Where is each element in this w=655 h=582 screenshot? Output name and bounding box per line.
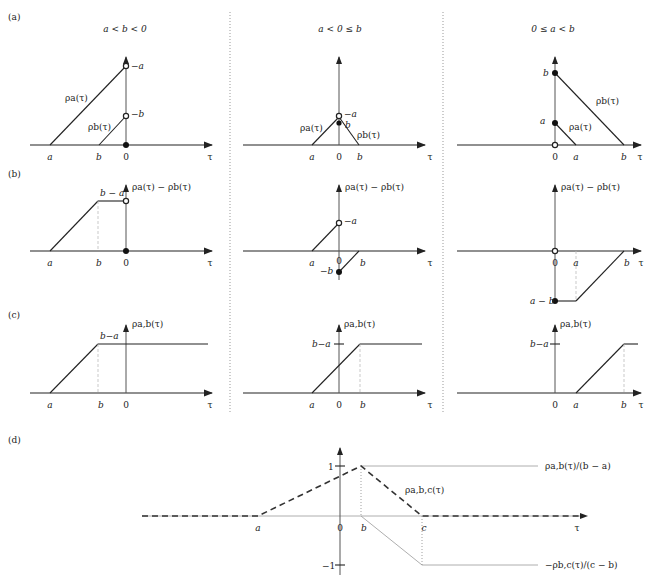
svg-text:a: a: [309, 258, 314, 268]
svg-text:τ: τ: [639, 400, 644, 410]
svg-text:−a: −a: [344, 216, 357, 226]
figure-canvas: (a) (b) (c) (d) a < b < 0 a < 0 ≤ b 0 ≤ …: [0, 0, 655, 582]
svg-text:ρa(τ): ρa(τ): [569, 122, 592, 132]
label-rho-ab-normalized: ρa,b(τ)/(b − a): [545, 461, 611, 471]
plot-a-col1: −a −b ρa(τ) ρb(τ) a b 0 τ: [30, 57, 213, 162]
svg-text:0: 0: [337, 523, 343, 533]
panel-label-d: (d): [8, 435, 21, 445]
svg-text:a: a: [540, 116, 545, 126]
svg-text:τ: τ: [575, 523, 580, 533]
svg-text:b: b: [621, 400, 627, 410]
svg-text:ρa,b(τ): ρa,b(τ): [560, 319, 591, 329]
svg-text:ρb(τ): ρb(τ): [357, 130, 380, 140]
plot-b-col3: ρa(τ) − ρb(τ) a − b 0 a b τ: [457, 182, 644, 306]
svg-text:τ: τ: [638, 152, 643, 162]
svg-text:τ: τ: [208, 152, 213, 162]
plot-a-col3: b a ρb(τ) ρa(τ) 0 a b τ: [457, 57, 643, 162]
svg-text:b−a: b−a: [312, 339, 331, 349]
svg-text:a: a: [573, 152, 578, 162]
svg-text:ρb(τ): ρb(τ): [88, 122, 111, 132]
svg-text:0: 0: [552, 400, 558, 410]
plot-c-col3: ρa,b(τ) b−a 0 a b τ: [457, 319, 644, 410]
svg-text:0: 0: [123, 258, 129, 268]
svg-text:b: b: [96, 152, 102, 162]
plot-b-col1: ρa(τ) − ρb(τ) b − a a b 0 τ: [30, 182, 213, 268]
svg-text:0: 0: [123, 400, 129, 410]
svg-text:a: a: [47, 152, 52, 162]
svg-text:ρb(τ): ρb(τ): [596, 96, 619, 106]
label-rho-bc-normalized: −ρb,c(τ)/(c − b): [545, 560, 618, 570]
svg-text:ρa(τ): ρa(τ): [65, 93, 88, 103]
panel-label-b: (b): [8, 169, 21, 179]
plot-d: 1 −1 a 0 b c τ ρa,b,c(τ) ρa,b(τ)/(b − a)…: [142, 448, 618, 575]
svg-text:b: b: [357, 152, 363, 162]
svg-text:a: a: [47, 258, 52, 268]
panel-label-a: (a): [8, 12, 20, 22]
svg-text:τ: τ: [208, 258, 213, 268]
svg-text:ρa(τ) − ρb(τ): ρa(τ) − ρb(τ): [345, 182, 404, 192]
svg-text:ρa,b(τ): ρa,b(τ): [344, 319, 375, 329]
svg-text:ρa(τ): ρa(τ): [300, 123, 323, 133]
svg-text:b: b: [360, 400, 366, 410]
svg-text:b: b: [360, 258, 366, 268]
svg-text:b: b: [361, 523, 367, 533]
plot-a-col2: −a b ρa(τ) ρb(τ) a 0 b τ: [243, 57, 433, 162]
condition-col2: a < 0 ≤ b: [318, 24, 362, 34]
svg-text:b − a: b − a: [100, 188, 124, 198]
svg-text:−b: −b: [320, 266, 334, 276]
svg-text:ρa,b(τ): ρa,b(τ): [132, 319, 163, 329]
svg-text:−1: −1: [322, 561, 335, 571]
svg-text:ρa(τ) − ρb(τ): ρa(τ) − ρb(τ): [561, 182, 620, 192]
svg-text:a: a: [573, 400, 578, 410]
svg-text:τ: τ: [208, 400, 213, 410]
svg-text:b−a: b−a: [100, 331, 119, 341]
svg-text:τ: τ: [428, 258, 433, 268]
condition-col1: a < b < 0: [103, 24, 147, 34]
svg-text:b: b: [621, 152, 627, 162]
svg-text:b: b: [624, 258, 630, 268]
svg-text:ρa(τ) − ρb(τ): ρa(τ) − ρb(τ): [132, 182, 191, 192]
label-rho-abc: ρa,b,c(τ): [405, 485, 444, 495]
condition-col3: 0 ≤ a < b: [531, 24, 575, 34]
svg-text:τ: τ: [428, 400, 433, 410]
svg-text:0: 0: [336, 152, 342, 162]
svg-text:a: a: [309, 152, 314, 162]
svg-text:a: a: [255, 523, 260, 533]
panel-label-c: (c): [8, 310, 20, 320]
svg-text:a: a: [573, 258, 578, 268]
svg-text:a − b: a − b: [530, 296, 555, 306]
svg-text:0: 0: [336, 400, 342, 410]
svg-text:1: 1: [328, 462, 334, 472]
svg-text:−b: −b: [131, 109, 145, 119]
svg-text:a: a: [309, 400, 314, 410]
svg-text:0: 0: [552, 152, 558, 162]
svg-text:0: 0: [552, 258, 558, 268]
svg-text:c: c: [421, 523, 426, 533]
plot-b-col2: ρa(τ) − ρb(τ) −a −b a 0 b τ: [243, 182, 433, 280]
svg-text:τ: τ: [428, 152, 433, 162]
svg-text:b: b: [96, 258, 102, 268]
svg-text:b: b: [98, 400, 104, 410]
plot-c-col2: ρa,b(τ) b−a a 0 b τ: [243, 319, 433, 410]
svg-text:b: b: [345, 120, 351, 130]
svg-text:0: 0: [123, 152, 129, 162]
svg-text:τ: τ: [639, 258, 644, 268]
svg-text:−a: −a: [131, 61, 144, 71]
svg-text:a: a: [47, 400, 52, 410]
svg-text:−a: −a: [344, 109, 357, 119]
svg-text:b−a: b−a: [530, 339, 549, 349]
plot-c-col1: ρa,b(τ) b−a a b 0 τ: [30, 319, 213, 410]
svg-text:0: 0: [336, 256, 342, 266]
svg-text:b: b: [543, 68, 549, 78]
